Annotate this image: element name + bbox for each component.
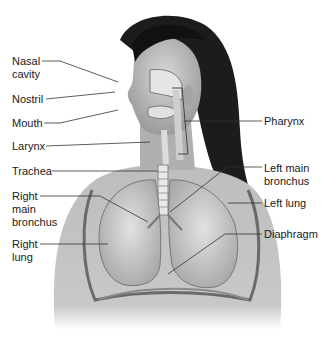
label-right-lung: Right lung — [12, 238, 38, 264]
label-mouth: Mouth — [12, 117, 43, 130]
label-pharynx: Pharynx — [264, 115, 304, 128]
label-diaphragm: Diaphragm — [264, 228, 318, 241]
label-nostril: Nostril — [12, 93, 43, 106]
label-trachea: Trachea — [12, 165, 52, 178]
label-right-main-bronchus: Right main bronchus — [12, 190, 57, 229]
label-larynx: Larynx — [12, 140, 45, 153]
trachea-shape — [158, 165, 168, 215]
label-left-main-bronchus: Left main bronchus — [264, 162, 309, 188]
label-nasal-cavity: Nasal cavity — [12, 55, 40, 81]
respiratory-diagram: Nasal cavity Nostril Mouth Larynx Trache… — [0, 0, 323, 338]
label-left-lung: Left lung — [264, 197, 306, 210]
